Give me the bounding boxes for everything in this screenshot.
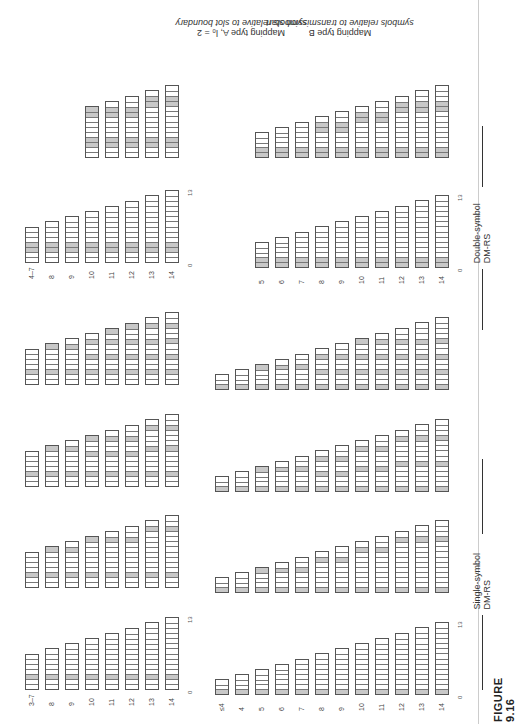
allocation-bar bbox=[315, 116, 329, 158]
dmrs-symbol bbox=[376, 262, 388, 267]
axis-start-label: 0 bbox=[187, 264, 193, 267]
dmrs-symbol bbox=[336, 587, 348, 592]
allocation-bar bbox=[355, 643, 369, 695]
allocation-bar bbox=[25, 552, 39, 588]
dmrs-symbol bbox=[316, 262, 328, 267]
data-symbol bbox=[106, 582, 118, 587]
dmrs-symbol bbox=[356, 262, 368, 267]
section-single-symbol: Single-symbol DM-RS bbox=[472, 459, 492, 690]
dmrs-symbol bbox=[316, 689, 328, 694]
length-label: 12 bbox=[128, 271, 135, 279]
section-rule bbox=[482, 615, 483, 690]
dmrs-symbol bbox=[376, 587, 388, 592]
data-symbol bbox=[86, 684, 98, 689]
allocation-bar bbox=[165, 515, 179, 588]
axis-end-label: 13 bbox=[457, 622, 463, 629]
dmrs-symbol bbox=[376, 689, 388, 694]
data-symbol bbox=[126, 684, 138, 689]
allocation-bar bbox=[215, 679, 229, 695]
dmrs-symbol bbox=[216, 384, 228, 389]
allocation-bar bbox=[315, 226, 329, 268]
length-label: 14 bbox=[168, 698, 175, 706]
length-label: 10 bbox=[88, 698, 95, 706]
data-symbol bbox=[86, 379, 98, 384]
length-label: 9 bbox=[338, 707, 345, 711]
axis-end-label: 13 bbox=[457, 195, 463, 202]
allocation-bar bbox=[415, 525, 429, 593]
data-symbol bbox=[166, 257, 178, 262]
allocation-bar bbox=[255, 466, 269, 492]
length-label: 13 bbox=[418, 276, 425, 284]
allocation-bar bbox=[45, 546, 59, 588]
dmrs-symbol bbox=[436, 262, 448, 267]
dmrs-symbol bbox=[296, 587, 308, 592]
dmrs-symbol bbox=[436, 152, 448, 157]
allocation-bar bbox=[45, 648, 59, 690]
allocation-bar bbox=[105, 430, 119, 487]
allocation-bar bbox=[395, 96, 409, 158]
dmrs-symbol bbox=[316, 587, 328, 592]
dmrs-symbol bbox=[416, 486, 428, 491]
allocation-bar bbox=[275, 359, 289, 390]
dmrs-symbol bbox=[276, 587, 288, 592]
dmrs-symbol bbox=[296, 689, 308, 694]
allocation-bar bbox=[435, 622, 449, 695]
data-symbol bbox=[106, 379, 118, 384]
allocation-bar bbox=[235, 369, 249, 390]
length-label: 4 bbox=[238, 707, 245, 711]
data-symbol bbox=[86, 582, 98, 587]
length-label: 14 bbox=[438, 276, 445, 284]
data-symbol bbox=[106, 257, 118, 262]
dmrs-symbol bbox=[356, 689, 368, 694]
dmrs-symbol bbox=[396, 486, 408, 491]
allocation-bar bbox=[65, 338, 79, 385]
data-symbol bbox=[46, 379, 58, 384]
length-label: 10 bbox=[358, 703, 365, 711]
allocation-bar bbox=[255, 669, 269, 695]
data-symbol bbox=[66, 481, 78, 486]
allocation-bar bbox=[315, 348, 329, 390]
dmrs-symbol bbox=[276, 262, 288, 267]
allocation-bar bbox=[255, 242, 269, 268]
allocation-bar bbox=[275, 562, 289, 593]
allocation-bar bbox=[315, 450, 329, 492]
dmrs-symbol bbox=[236, 587, 248, 592]
data-symbol bbox=[146, 684, 158, 689]
length-label: 14 bbox=[438, 703, 445, 711]
section-rule bbox=[482, 269, 483, 330]
length-label: 12 bbox=[128, 698, 135, 706]
data-symbol bbox=[146, 379, 158, 384]
allocation-bar bbox=[105, 328, 119, 385]
allocation-bar bbox=[105, 101, 119, 158]
dmrs-symbol bbox=[436, 384, 448, 389]
data-symbol bbox=[166, 582, 178, 587]
allocation-bar bbox=[125, 323, 139, 385]
dmrs-symbol bbox=[296, 152, 308, 157]
allocation-bar bbox=[85, 211, 99, 263]
length-label: ≤4 bbox=[218, 703, 225, 711]
length-label: 13 bbox=[148, 271, 155, 279]
dmrs-symbol bbox=[276, 689, 288, 694]
allocation-bar bbox=[295, 232, 309, 268]
length-label: 8 bbox=[48, 275, 55, 279]
length-label: 12 bbox=[398, 703, 405, 711]
allocation-bar bbox=[435, 317, 449, 390]
data-symbol bbox=[46, 684, 58, 689]
data-symbol bbox=[146, 257, 158, 262]
data-symbol bbox=[166, 481, 178, 486]
allocation-bar bbox=[295, 456, 309, 492]
allocation-bar bbox=[85, 435, 99, 487]
allocation-bar bbox=[375, 536, 389, 593]
dmrs-symbol bbox=[336, 152, 348, 157]
typeB-title-line1: Mapping type B bbox=[255, 28, 425, 38]
dmrs-symbol bbox=[256, 689, 268, 694]
allocation-bar bbox=[105, 206, 119, 263]
dmrs-symbol bbox=[436, 587, 448, 592]
dmrs-symbol bbox=[316, 486, 328, 491]
length-label: 9 bbox=[68, 702, 75, 706]
allocation-bar bbox=[145, 622, 159, 690]
data-symbol bbox=[126, 481, 138, 486]
dmrs-symbol bbox=[376, 384, 388, 389]
allocation-bar bbox=[415, 90, 429, 158]
dmrs-symbol bbox=[336, 262, 348, 267]
